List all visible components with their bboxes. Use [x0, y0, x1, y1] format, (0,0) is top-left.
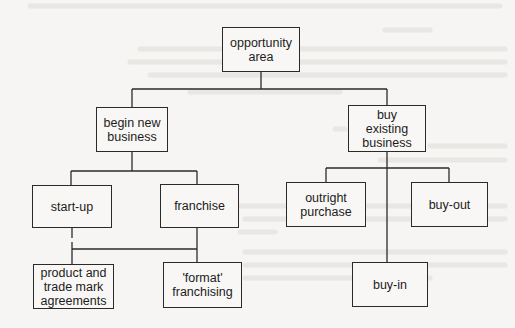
node-franchise: franchise — [160, 184, 239, 228]
node-label: buy existing business — [362, 108, 411, 150]
node-begin-new-business: begin new business — [96, 107, 168, 152]
node-product-trade-mark-agreements: product and trade mark agreements — [33, 264, 114, 309]
diagram-canvas: opportunity area begin new business buy … — [0, 0, 515, 328]
node-buy-existing-business: buy existing business — [348, 105, 426, 152]
node-outright-purchase: outright purchase — [286, 182, 366, 227]
node-label: product and trade mark agreements — [40, 266, 106, 308]
node-format-franchising: 'format' franchising — [163, 262, 242, 308]
node-start-up: start-up — [32, 185, 112, 228]
node-opportunity-area: opportunity area — [222, 27, 300, 72]
node-label: outright purchase — [300, 191, 351, 219]
node-label: start-up — [51, 200, 93, 214]
node-label: buy-in — [373, 278, 407, 292]
node-label: opportunity area — [230, 36, 292, 64]
node-label: franchise — [174, 199, 225, 213]
node-label: 'format' franchising — [172, 271, 232, 299]
node-buy-out: buy-out — [411, 182, 488, 227]
node-label: buy-out — [429, 198, 471, 212]
node-buy-in: buy-in — [352, 262, 428, 307]
node-label: begin new business — [104, 116, 161, 144]
